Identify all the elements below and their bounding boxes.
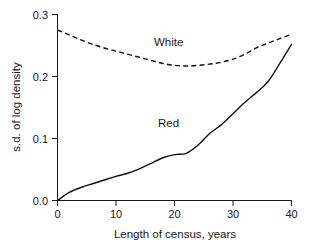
series-label-red: Red xyxy=(158,117,179,129)
y-tick-label-3: 0.0 xyxy=(33,195,48,207)
y-tick-label-1: 0.2 xyxy=(33,71,48,83)
y-axis-title: s.d. of log density xyxy=(10,62,22,152)
chart-svg: 0.3 0.2 0.1 0.0 0 10 20 30 40 Length of … xyxy=(0,0,323,248)
x-axis-title: Length of census, years xyxy=(114,228,236,240)
series-label-white: White xyxy=(154,36,183,48)
y-tick-label-2: 0.1 xyxy=(33,133,48,145)
chart-figure: 0.3 0.2 0.1 0.0 0 10 20 30 40 Length of … xyxy=(0,0,323,248)
x-tick-label-3: 30 xyxy=(227,208,239,220)
x-tick-label-0: 0 xyxy=(54,208,60,220)
x-tick-label-2: 20 xyxy=(168,208,180,220)
x-tick-label-4: 40 xyxy=(285,208,297,220)
x-tick-label-1: 10 xyxy=(110,208,122,220)
y-tick-label-0: 0.3 xyxy=(33,9,48,21)
